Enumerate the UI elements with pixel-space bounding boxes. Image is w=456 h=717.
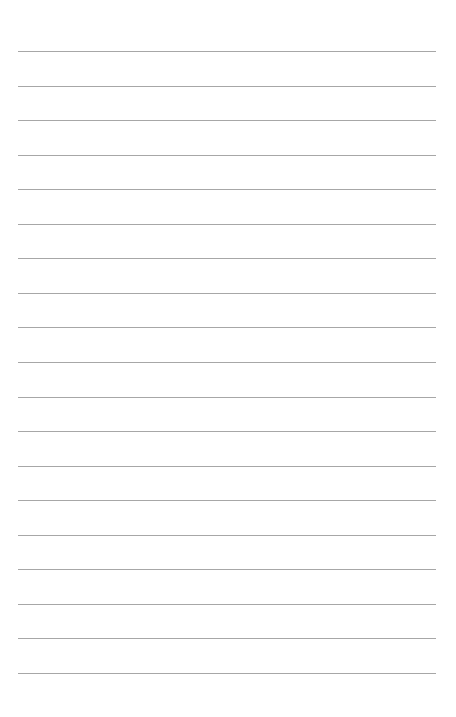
ruled-line <box>18 258 436 259</box>
ruled-line <box>18 189 436 190</box>
ruled-line <box>18 86 436 87</box>
ruled-line <box>18 362 436 363</box>
ruled-line <box>18 604 436 605</box>
ruled-line <box>18 397 436 398</box>
ruled-line <box>18 673 436 674</box>
ruled-line <box>18 535 436 536</box>
ruled-line <box>18 431 436 432</box>
ruled-line <box>18 466 436 467</box>
ruled-line <box>18 500 436 501</box>
ruled-line <box>18 120 436 121</box>
ruled-line <box>18 51 436 52</box>
ruled-line <box>18 293 436 294</box>
ruled-line <box>18 155 436 156</box>
ruled-line <box>18 224 436 225</box>
lined-paper-sheet <box>0 0 456 717</box>
ruled-line <box>18 638 436 639</box>
ruled-line <box>18 327 436 328</box>
ruled-line <box>18 569 436 570</box>
